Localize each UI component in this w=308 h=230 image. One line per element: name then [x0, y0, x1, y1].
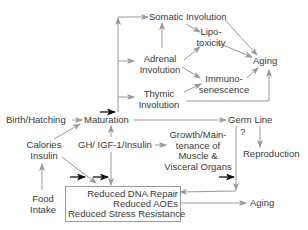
node-lipotoxicity-line2: toxicity	[194, 38, 228, 49]
node-maturation: Maturation	[84, 115, 129, 126]
node-adrenal-involution: Adrenal Involution	[136, 54, 184, 75]
node-food-line2: Intake	[28, 205, 58, 216]
node-adrenal-line2: Involution	[136, 65, 184, 76]
node-birth-hatching: Birth/Hatching	[6, 115, 66, 126]
node-germ-line: Germ Line	[228, 115, 272, 126]
node-thymic-involution: Thymic Involution	[134, 89, 184, 110]
node-thymic-line2: Involution	[134, 100, 184, 111]
node-food-line1: Food	[28, 194, 58, 205]
node-immuno-line2: senescence	[198, 85, 250, 96]
node-gh-igf-insulin: GH/ IGF-1/Insulin	[78, 140, 152, 151]
node-calories-line2: Insulin	[24, 151, 64, 162]
reduced-stress-resistance: Reduced Stress Resistance	[68, 209, 185, 220]
node-somatic-involution: Somatic Involution	[149, 12, 227, 23]
node-growth-line4: Visceral Organs	[162, 162, 234, 173]
node-aging-bottom: Aging	[250, 198, 274, 209]
node-calories-line1: Calories	[24, 140, 64, 151]
reduced-effects-box: Reduced DNA Repair Reduced AOEs Reduced …	[65, 186, 181, 222]
node-aging-top: Aging	[253, 56, 277, 67]
node-thymic-line1: Thymic	[134, 89, 184, 100]
germ-line-question-mark: ?	[240, 127, 245, 138]
node-growth-line3: Muscle &	[162, 151, 234, 162]
node-lipotoxicity-line1: Lipo-	[194, 27, 228, 38]
node-immunosenescence: Immuno- senescence	[198, 74, 250, 95]
node-adrenal-line1: Adrenal	[136, 54, 184, 65]
node-immuno-line1: Immuno-	[198, 74, 250, 85]
node-growth-maintenance: Growth/Main- tenance of Muscle & Viscera…	[162, 130, 234, 172]
node-reproduction: Reproduction	[243, 149, 300, 160]
node-food-intake: Food Intake	[28, 194, 58, 215]
node-growth-line1: Growth/Main-	[162, 130, 234, 141]
node-lipotoxicity: Lipo- toxicity	[194, 27, 228, 48]
node-calories-insulin: Calories Insulin	[24, 140, 64, 161]
